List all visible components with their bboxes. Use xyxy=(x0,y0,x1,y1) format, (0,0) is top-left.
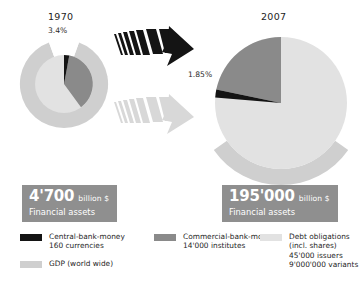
legend-line: (incl. shares) xyxy=(289,241,358,250)
value-caption-1970: Financial assets xyxy=(29,207,110,217)
percent-callout-1970: 3.4% xyxy=(48,26,67,35)
legend-line: GDP (world wide) xyxy=(49,259,113,268)
legend-item-central-bank-money: Central-bank-money 160 currencies xyxy=(20,232,125,251)
pie-chart-2007 xyxy=(196,18,363,188)
legend-text-gdp: GDP (world wide) xyxy=(49,259,113,268)
value-unit-1970: billion $ xyxy=(78,195,109,203)
value-box-1970: 4'700 billion $ Financial assets xyxy=(22,185,117,222)
legend-text-central-bank-money: Central-bank-money 160 currencies xyxy=(49,232,125,251)
value-amount-1970: 4'700 xyxy=(29,189,74,204)
legend-item-gdp: GDP (world wide) xyxy=(20,259,113,268)
legend-line: Central-bank-money xyxy=(49,232,125,241)
value-unit-2007: billion $ xyxy=(299,195,330,203)
value-row-1970: 4'700 billion $ xyxy=(29,189,110,204)
year-label-1970: 1970 xyxy=(48,11,73,22)
legend-swatch-debt-obligations xyxy=(260,234,282,241)
pie-chart-1970 xyxy=(18,38,110,130)
legend-item-commercial-bank-money: Commercial-bank-money 14'000 institutes xyxy=(154,232,276,251)
growth-arrow-light-icon xyxy=(112,94,196,142)
value-box-2007: 195'000 billion $ Financial assets xyxy=(222,185,338,222)
legend-line: Debt obligations xyxy=(289,232,358,241)
legend-line: 160 currencies xyxy=(49,241,125,250)
legend-swatch-gdp xyxy=(20,261,42,268)
value-amount-2007: 195'000 xyxy=(229,189,295,204)
legend-item-debt-obligations: Debt obligations (incl. shares) 45'000 i… xyxy=(260,232,358,270)
value-caption-2007: Financial assets xyxy=(229,207,331,217)
legend-line: 9'000'000 variants xyxy=(289,260,358,269)
value-row-2007: 195'000 billion $ xyxy=(229,189,331,204)
legend-swatch-commercial-bank-money xyxy=(154,234,176,241)
growth-arrow-dark-icon xyxy=(112,26,196,74)
chart-legend: Central-bank-money 160 currencies Commer… xyxy=(20,232,350,284)
legend-text-debt-obligations: Debt obligations (incl. shares) 45'000 i… xyxy=(289,232,358,270)
legend-line: 45'000 issuers xyxy=(289,251,358,260)
legend-swatch-central-bank-money xyxy=(20,234,42,241)
